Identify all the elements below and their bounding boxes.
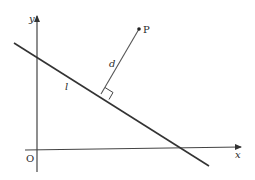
distance-d-label: d [109,58,115,69]
x-axis-label: x [235,149,241,160]
x-axis [25,147,241,150]
point-p-marker [137,27,141,31]
point-p-label: P [143,24,150,35]
diagram-canvas: y x O P d l [0,0,255,180]
origin-label: O [26,153,34,164]
y-axis-label: y [28,13,35,24]
line-l-label: l [65,81,68,92]
right-angle-marker [105,88,113,100]
perpendicular-segment-d [101,29,139,94]
